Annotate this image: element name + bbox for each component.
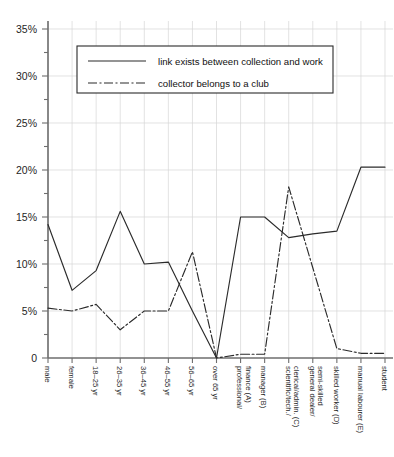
x-axis-tick-label: 36–45 yr [139,366,148,396]
clipped-caption [70,0,330,5]
y-axis-tick-label: 5% [22,305,37,317]
x-axis-tick-label: manager (B) [259,366,268,409]
x-axis-tick-label: 56–65 yr [187,366,196,396]
x-axis-tick-label: skilled worker (D) [332,366,341,425]
y-axis-tick-label: 30% [16,70,37,82]
legend-label-1: link exists between collection and work [158,56,323,67]
x-axis-labels: malefemale18–25 yr26–35 yr36–45 yr46–55 … [43,366,389,434]
y-axis-tick-label: 35% [16,23,37,35]
x-axis-tick-label: 18–25 yr [91,366,100,396]
svg-text:over 65 yr: over 65 yr [211,366,220,400]
svg-text:general dealer/: general dealer/ [308,366,317,418]
x-axis-tick-label: student [380,366,389,392]
x-axis-tick-label: manual labourer (E) [356,366,365,434]
svg-text:skilled worker (D): skilled worker (D) [332,366,341,425]
chart-canvas: 35%30%25%20%15%10%5%0 malefemale18–25 yr… [0,0,394,457]
y-axis-tick-label: 10% [16,258,37,270]
x-axis-tick-label: scientific/tech./clerical/admin. (C) [284,366,301,428]
svg-text:manager (B): manager (B) [259,366,268,409]
x-axis-tick-label: 46–55 yr [163,366,172,396]
x-axis-tick-label: male [43,366,52,382]
svg-text:36–45 yr: 36–45 yr [139,366,148,396]
svg-text:scientific/tech./: scientific/tech./ [284,366,293,417]
svg-text:18–25 yr: 18–25 yr [91,366,100,396]
line-chart: 35%30%25%20%15%10%5%0 malefemale18–25 yr… [0,0,394,457]
svg-text:26–35 yr: 26–35 yr [115,366,124,396]
chart-legend: link exists between collection and workc… [77,46,333,93]
y-axis-tick-label: 15% [16,211,37,223]
svg-text:male: male [43,366,52,382]
y-axis-tick-label: 25% [16,117,37,129]
y-axis-tick-label: 20% [16,164,37,176]
y-axis-labels: 35%30%25%20%15%10%5%0 [16,23,37,364]
svg-text:semi-skilled: semi-skilled [316,366,325,406]
svg-text:clerical/admin. (C): clerical/admin. (C) [292,366,301,428]
svg-text:56–65 yr: 56–65 yr [187,366,196,396]
x-axis-tick-label: over 65 yr [211,366,220,400]
svg-text:student: student [380,366,389,392]
svg-text:manual labourer (E): manual labourer (E) [356,366,365,434]
x-axis-tick-label: 26–35 yr [115,366,124,396]
x-axis-tick-label: professional/finance (A) [235,366,252,410]
svg-text:46–55 yr: 46–55 yr [163,366,172,396]
svg-text:female: female [67,366,76,389]
svg-text:professional/: professional/ [235,366,244,410]
svg-text:finance (A): finance (A) [244,366,253,403]
x-axis-tick-label: female [67,366,76,389]
legend-label-2: collector belongs to a club [158,78,269,89]
y-axis-tick-label: 0 [31,352,37,364]
x-axis-tick-label: general dealer/semi-skilled [308,366,325,418]
